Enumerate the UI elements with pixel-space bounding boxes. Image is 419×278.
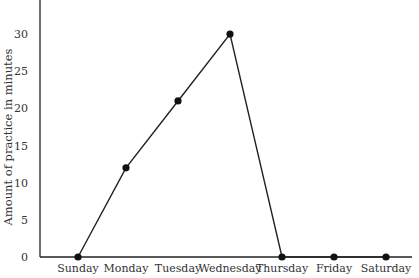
x-tick-label: Monday bbox=[104, 262, 150, 275]
line-chart: 051015202530 SundayMondayTuesdayWednesda… bbox=[0, 0, 419, 278]
data-point-marker bbox=[226, 30, 233, 37]
x-tick-label: Saturday bbox=[361, 262, 412, 275]
data-point-marker bbox=[382, 253, 389, 260]
y-tick-label: 10 bbox=[14, 177, 28, 190]
series-line bbox=[78, 34, 386, 257]
x-tick-label: Tuesday bbox=[155, 262, 202, 275]
x-tick-label: Wednesday bbox=[198, 262, 262, 275]
y-axis: 051015202530 bbox=[14, 0, 40, 264]
data-point-marker bbox=[74, 253, 81, 260]
x-tick-label: Friday bbox=[316, 262, 353, 275]
y-tick-label: 0 bbox=[21, 251, 28, 264]
y-tick-label: 30 bbox=[14, 28, 28, 41]
data-point-marker bbox=[330, 253, 337, 260]
data-series bbox=[74, 30, 389, 260]
y-tick-label: 25 bbox=[14, 65, 28, 78]
x-axis: SundayMondayTuesdayWednesdayThursdayFrid… bbox=[40, 257, 412, 275]
data-point-marker bbox=[278, 253, 285, 260]
y-tick-label: 5 bbox=[21, 214, 28, 227]
x-tick-label: Sunday bbox=[57, 262, 99, 275]
x-tick-label: Thursday bbox=[256, 262, 309, 275]
y-axis-label: Amount of practice in minutes bbox=[1, 48, 15, 226]
data-point-marker bbox=[122, 164, 129, 171]
y-tick-label: 20 bbox=[14, 102, 28, 115]
data-point-marker bbox=[174, 97, 181, 104]
y-tick-label: 15 bbox=[14, 140, 28, 153]
